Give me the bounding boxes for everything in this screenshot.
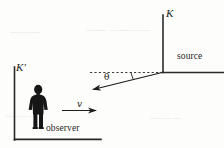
physics-diagram-figure: ——— —— ———— ——— ——— — [0, 0, 224, 148]
frame-k-axes — [162, 15, 224, 73]
diagram-vector-layer — [0, 0, 224, 148]
frame-kprime-label: K′ — [16, 62, 26, 73]
observer-label: observer — [46, 124, 80, 134]
observer-figure-icon — [29, 85, 48, 129]
angle-theta-label: θ — [104, 73, 109, 82]
velocity-label: v — [77, 100, 82, 109]
angle-arc — [131, 73, 133, 80]
source-label: source — [177, 52, 202, 62]
frame-k-label: K — [166, 8, 174, 19]
